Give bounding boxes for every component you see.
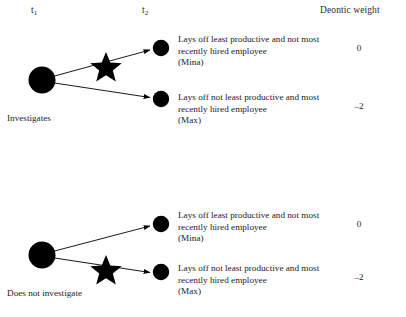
root-node-does-not-investigate [29,242,56,269]
outcome-text: Lays off least productive and not most r… [178,34,330,69]
outcome-text: Lays off not least productive and most r… [178,263,330,298]
edge-not-investigate-to-mina [55,226,151,251]
root-label-investigates: Investigates [7,113,51,123]
column-header-t1-subscript: 1 [34,9,38,17]
deontic-weight-value: 0 [345,43,373,53]
deontic-weight-value: –2 [345,101,373,111]
outcome-text: Lays off least productive and not most r… [178,210,330,245]
outcome-node-mina-investigates [153,40,169,56]
star-marker-not-investigate-max [90,255,121,284]
root-node-investigates [29,67,56,94]
column-header-t1: t1 [31,5,37,15]
column-header-deontic-weight: Deontic weight [320,5,380,15]
edge-investigates-to-max [55,83,151,98]
decision-tree-figure: t1 t2 Deontic weight Lays off least prod… [0,0,406,317]
outcome-node-mina-not-investigate [153,216,169,232]
star-marker-investigates-mina [90,52,121,81]
column-header-t2: t2 [142,5,148,15]
deontic-weight-value: 0 [345,219,373,229]
outcome-node-max-investigates [153,91,169,107]
root-label-does-not-investigate: Does not investigate [7,288,82,298]
outcome-node-max-not-investigate [153,264,169,280]
deontic-weight-value: –2 [345,272,373,282]
outcome-text: Lays off not least productive and most r… [178,92,330,127]
column-header-t2-subscript: 2 [145,9,149,17]
